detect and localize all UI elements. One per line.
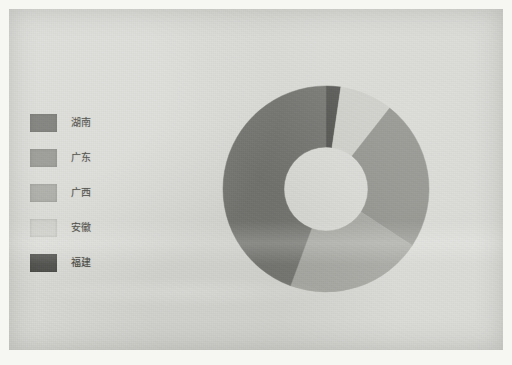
legend-swatch-fujian (30, 254, 57, 272)
legend-swatch-anhui (30, 219, 57, 237)
chart-legend: 湖南 广东 广西 安徽 福建 (30, 105, 150, 280)
legend-item-guangxi[interactable]: 广西 (30, 175, 150, 210)
legend-label-anhui: 安徽 (71, 223, 92, 233)
legend-swatch-guangdong (30, 149, 57, 167)
legend-label-fujian: 福建 (71, 258, 92, 268)
legend-label-guangdong: 广东 (71, 153, 92, 163)
legend-swatch-hunan (30, 114, 57, 132)
donut-chart (214, 77, 439, 302)
legend-item-guangdong[interactable]: 广东 (30, 140, 150, 175)
legend-item-fujian[interactable]: 福建 (30, 245, 150, 280)
screenshot-root: 湖南 广东 广西 安徽 福建 (0, 0, 512, 365)
legend-swatch-guangxi (30, 184, 57, 202)
legend-item-hunan[interactable]: 湖南 (30, 105, 150, 140)
legend-label-guangxi: 广西 (71, 188, 92, 198)
donut-slice-group (223, 86, 429, 292)
donut-svg (214, 77, 439, 302)
legend-item-anhui[interactable]: 安徽 (30, 210, 150, 245)
chart-panel: 湖南 广东 广西 安徽 福建 (9, 9, 503, 350)
legend-label-hunan: 湖南 (71, 118, 92, 128)
